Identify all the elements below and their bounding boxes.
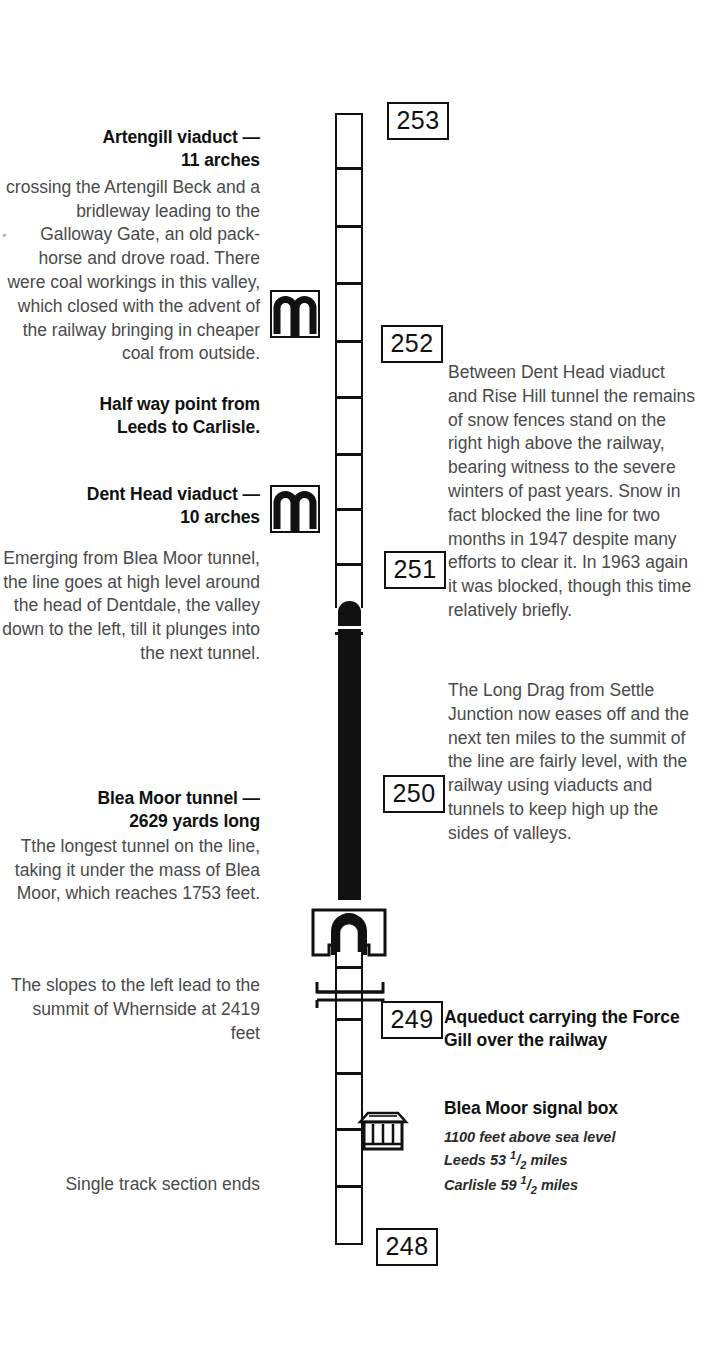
signal-box-icon xyxy=(357,1108,409,1156)
dent-head-heading-line1: Dent Head viaduct — xyxy=(0,483,260,506)
dent-head-body: Emerging from Blea Moor tunnel, the line… xyxy=(0,547,260,666)
signal-box-detail-line: Leeds 53 1/2 miles xyxy=(444,1148,694,1173)
milepost-249: 249 xyxy=(381,1001,443,1039)
tunnel-black-section xyxy=(338,612,361,900)
track-tick xyxy=(335,1018,363,1021)
blea-moor-tunnel-block: Blea Moor tunnel — 2629 yards long Tthe … xyxy=(0,787,260,906)
single-track-ends-block: Single track section ends xyxy=(0,1173,260,1197)
track-tick xyxy=(335,340,363,343)
aqueduct-heading: Aqueduct carrying the Force Gill over th… xyxy=(444,1006,694,1053)
track-tick xyxy=(335,453,363,456)
artengill-heading-line1: Artengill viaduct — xyxy=(0,126,260,149)
milepost-250: 250 xyxy=(383,775,445,813)
detail-pre: Leeds 53 xyxy=(444,1152,510,1168)
viaduct-icon xyxy=(270,485,320,533)
dent-head-block: Dent Head viaduct — 10 arches Emerging f… xyxy=(0,483,260,666)
milepost-253: 253 xyxy=(387,102,449,140)
halfway-heading-line2: Leeds to Carlisle. xyxy=(0,416,260,439)
signal-box-detail-line: Carlisle 59 1/2 miles xyxy=(444,1173,694,1198)
aqueduct-icon xyxy=(314,979,386,1009)
snow-fences-block: Between Dent Head viaduct and Rise Hill … xyxy=(448,361,696,623)
artengill-body: crossing the Artengill Beck and a bridle… xyxy=(0,176,260,366)
track-tick xyxy=(335,282,363,285)
signal-box-heading: Blea Moor signal box xyxy=(444,1097,694,1120)
artengill-block: Artengill viaduct — 11 arches crossing t… xyxy=(0,126,260,366)
signal-box-details: 1100 feet above sea level Leeds 53 1/2 m… xyxy=(444,1127,694,1198)
signal-box-block: Blea Moor signal box 1100 feet above sea… xyxy=(444,1097,694,1199)
track-tick xyxy=(335,167,363,170)
track-tick xyxy=(335,508,363,511)
blea-moor-tunnel-heading-line1: Blea Moor tunnel — xyxy=(0,787,260,810)
track-tick xyxy=(335,1185,363,1188)
detail-pre: Carlisle 59 xyxy=(444,1177,521,1193)
track-tick xyxy=(335,225,363,228)
viaduct-icon xyxy=(270,290,320,338)
halfway-heading-line1: Half way point from xyxy=(0,393,260,416)
signal-box-detail-line: 1100 feet above sea level xyxy=(444,1127,694,1148)
track-tick xyxy=(335,1072,363,1075)
route-diagram-page: 253 252 251 250 249 248 • A xyxy=(0,0,709,1345)
detail-post: miles xyxy=(526,1152,567,1168)
blea-moor-tunnel-body: Tthe longest tunnel on the line, taking … xyxy=(0,835,260,906)
halfway-block: Half way point from Leeds to Carlisle. xyxy=(0,393,260,440)
dent-head-heading-line2: 10 arches xyxy=(0,506,260,529)
tunnel-tick xyxy=(335,632,363,635)
track-tick xyxy=(335,396,363,399)
artengill-heading-line2: 11 arches xyxy=(0,149,260,172)
track-tick xyxy=(335,563,363,566)
track-segment-open-upper xyxy=(335,113,363,608)
whernside-block: The slopes to the left lead to the summi… xyxy=(0,974,260,1045)
milepost-248: 248 xyxy=(376,1228,438,1266)
tunnel-tick xyxy=(335,626,363,629)
aqueduct-block: Aqueduct carrying the Force Gill over th… xyxy=(444,1006,694,1053)
long-drag-block: The Long Drag from Settle Junction now e… xyxy=(448,679,696,846)
blea-moor-tunnel-heading-line2: 2629 yards long xyxy=(0,810,260,833)
milepost-251: 251 xyxy=(384,551,446,589)
track-tick xyxy=(335,966,363,969)
milepost-252: 252 xyxy=(381,325,443,363)
detail-post: miles xyxy=(537,1177,578,1193)
